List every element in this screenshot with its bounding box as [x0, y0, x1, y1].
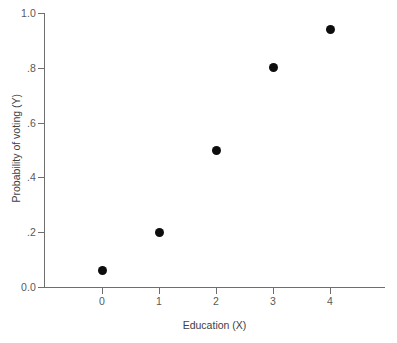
data-point [98, 266, 107, 275]
x-axis-title: Education (X) [44, 320, 385, 331]
data-point [326, 25, 335, 34]
data-point [269, 63, 278, 72]
scatter-plot-figure: 0.0.2.4.6.81.0 01234 Education (X) Proba… [0, 0, 397, 343]
plot-area [0, 0, 397, 343]
data-point [212, 146, 221, 155]
y-axis-title: Probability of voting (Y) [11, 68, 22, 228]
data-point [155, 228, 164, 237]
